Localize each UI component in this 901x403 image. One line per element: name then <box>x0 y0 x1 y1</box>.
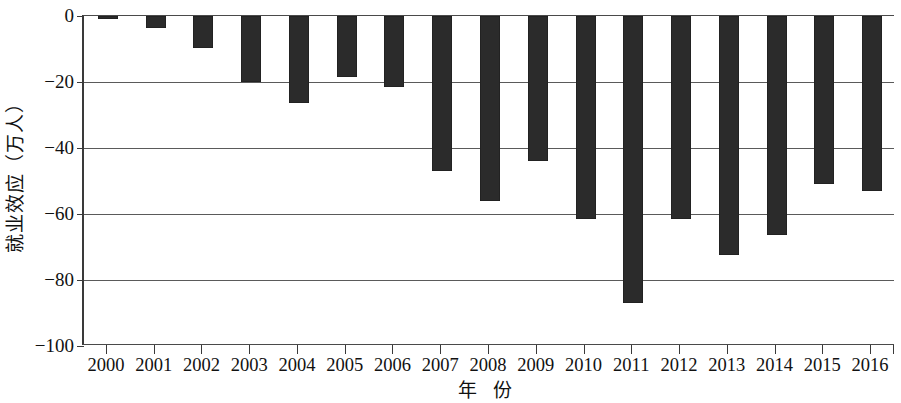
bar <box>480 16 500 201</box>
x-tick-mark <box>727 345 728 354</box>
x-tick-label: 2014 <box>756 356 793 375</box>
x-tick-mark <box>297 345 298 354</box>
x-tick-label: 2011 <box>613 356 649 375</box>
x-tick-mark <box>822 345 823 354</box>
x-tick-mark <box>536 345 537 354</box>
y-tick-mark <box>77 280 84 281</box>
x-tick-mark <box>106 345 107 354</box>
x-axis-end-tick <box>893 345 894 354</box>
bar <box>671 16 691 219</box>
x-tick-label: 2004 <box>278 356 315 375</box>
x-tick-mark <box>631 345 632 354</box>
x-tick-mark <box>392 345 393 354</box>
bar <box>337 16 357 77</box>
bar <box>432 16 452 171</box>
x-tick-mark <box>201 345 202 354</box>
x-tick-mark <box>154 345 155 354</box>
y-tick-label: −60 <box>44 204 74 223</box>
y-tick-mark <box>77 16 84 17</box>
y-tick-mark <box>77 214 84 215</box>
x-tick-label: 2006 <box>374 356 411 375</box>
y-axis-tick-labels: 0−20−40−60−80−100 <box>22 0 80 360</box>
bar-chart-figure: 就业效应（万人） 0−20−40−60−80−100 2000200120022… <box>0 0 901 403</box>
bar <box>146 16 166 28</box>
x-tick-label: 2009 <box>517 356 554 375</box>
x-tick-mark <box>679 345 680 354</box>
bar <box>384 16 404 87</box>
x-tick-label: 2002 <box>183 356 220 375</box>
bar <box>719 16 739 255</box>
bar <box>289 16 309 103</box>
bar <box>241 16 261 82</box>
x-tick-mark <box>440 345 441 354</box>
y-tick-label: −40 <box>44 138 74 157</box>
bar <box>98 16 118 19</box>
y-tick-label: −20 <box>44 72 74 91</box>
y-tick-label: −80 <box>44 270 74 289</box>
y-tick-mark <box>77 148 84 149</box>
bar <box>814 16 834 184</box>
bar <box>623 16 643 303</box>
bar <box>576 16 596 219</box>
x-axis-title: 年 份 <box>82 375 894 402</box>
y-tick-label: −100 <box>35 336 74 355</box>
bar <box>767 16 787 235</box>
x-tick-mark <box>584 345 585 354</box>
x-tick-mark <box>249 345 250 354</box>
x-tick-label: 2005 <box>326 356 363 375</box>
x-tick-label: 2008 <box>470 356 507 375</box>
x-tick-label: 2007 <box>422 356 459 375</box>
y-tick-mark <box>77 82 84 83</box>
x-tick-label: 2001 <box>135 356 172 375</box>
x-tick-label: 2013 <box>708 356 745 375</box>
bar-series <box>84 16 894 344</box>
plot-area <box>82 15 894 345</box>
x-tick-label: 2003 <box>231 356 268 375</box>
x-tick-mark <box>870 345 871 354</box>
bar <box>862 16 882 191</box>
x-tick-label: 2012 <box>661 356 698 375</box>
x-tick-label: 2016 <box>852 356 889 375</box>
bar <box>528 16 548 161</box>
bar <box>193 16 213 48</box>
x-tick-label: 2015 <box>804 356 841 375</box>
x-tick-label: 2010 <box>565 356 602 375</box>
x-tick-label: 2000 <box>87 356 124 375</box>
y-tick-label: 0 <box>65 6 75 25</box>
x-tick-mark <box>775 345 776 354</box>
x-tick-mark <box>345 345 346 354</box>
x-tick-mark <box>488 345 489 354</box>
